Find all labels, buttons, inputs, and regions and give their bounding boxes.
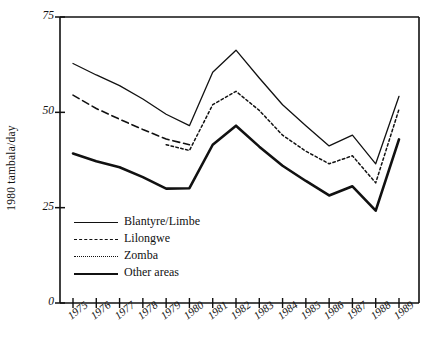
legend-item-zomba: Zomba [74, 247, 200, 264]
legend-item-blantyre-limbe: Blantyre/Limbe [74, 213, 200, 230]
legend: Blantyre/Limbe Lilongwe Zomba Other area… [74, 213, 200, 281]
x-tick-label: 1987 [344, 298, 369, 321]
x-tick-label: 1978 [135, 298, 160, 321]
x-tick-label: 1989 [391, 298, 416, 321]
legend-swatch-solid-thin [74, 216, 118, 228]
legend-label: Blantyre/Limbe [124, 214, 200, 229]
x-tick-label: 1979 [158, 298, 183, 321]
x-tick-label: 1975 [65, 298, 90, 321]
x-tick-label: 1986 [321, 298, 346, 321]
x-tick-label: 1982 [228, 298, 253, 321]
x-tick-label: 1983 [251, 298, 276, 321]
x-tick-label: 1981 [205, 298, 230, 321]
x-axis-tick-labels: 1975197619771978197919801981198219831984… [0, 0, 436, 345]
legend-swatch-solid-thick [74, 267, 118, 279]
x-tick-label: 1980 [181, 298, 206, 321]
x-tick-label: 1985 [298, 298, 323, 321]
legend-label: Other areas [124, 265, 179, 280]
legend-item-other-areas: Other areas [74, 264, 200, 281]
legend-label: Zomba [124, 248, 158, 263]
x-tick-label: 1988 [368, 298, 393, 321]
legend-swatch-dotted [74, 250, 118, 262]
chart-figure: 1980 tambala/day 0255075 197519761977197… [0, 0, 436, 345]
legend-swatch-dashed [74, 233, 118, 245]
legend-item-lilongwe: Lilongwe [74, 230, 200, 247]
x-tick-label: 1977 [112, 298, 137, 321]
x-tick-label: 1976 [88, 298, 113, 321]
x-tick-label: 1984 [275, 298, 300, 321]
legend-label: Lilongwe [124, 231, 170, 246]
